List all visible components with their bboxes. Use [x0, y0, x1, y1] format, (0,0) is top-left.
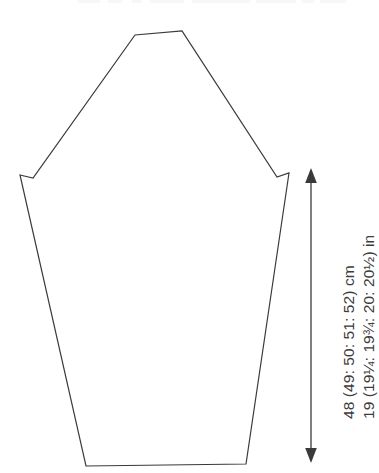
dimension-label-imperial: 19 (19¼: 19¾: 20: 20½) in [361, 235, 377, 419]
dimension-arrowhead-top [305, 168, 317, 183]
pattern-piece-diagram [0, 0, 379, 473]
diagram-canvas: 48 (49: 50: 51: 52) cm 19 (19¼: 19¾: 20:… [0, 0, 379, 473]
pattern-piece-outline [20, 31, 289, 466]
dimension-label-metric: 48 (49: 50: 51: 52) cm [341, 265, 357, 419]
height-dimension-arrow [305, 168, 317, 463]
dimension-arrowhead-bottom [305, 448, 317, 463]
